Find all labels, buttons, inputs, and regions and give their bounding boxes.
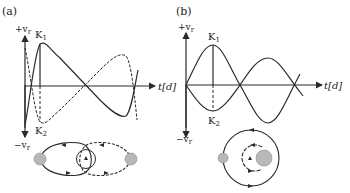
k2-label: K2 [35,125,47,138]
panel-b: (b) +vr −vr t[d] K1 K2 [176,5,342,188]
arrow-icon [99,143,104,147]
star-small [218,153,228,163]
x-label: t[d] [324,80,342,91]
solid-velocity-curve [186,45,300,123]
arrow-icon [248,169,253,173]
arrow-icon [249,128,254,132]
solid-velocity-curve [25,43,138,125]
k1-label: K1 [208,31,220,44]
radial-velocity-diagram: (a) +vr −vr t[d] K1 K2 (b) [0,0,350,193]
star-left [34,153,46,165]
k1-label: K1 [35,29,47,42]
center-of-mass-icon [248,156,252,160]
y-neg-label: −vr [14,140,31,152]
center-of-mass-icon [84,156,88,160]
y-pos-label: +vr [178,22,195,34]
circular-orbit-diagram [218,128,279,188]
arrow-icon [248,184,253,188]
star-right [125,153,137,165]
x-label: t[d] [158,81,176,92]
panel-a-label: (a) [2,5,17,18]
arrow-icon [66,171,71,175]
arrow-icon [250,143,255,147]
star-large [256,150,272,166]
y-neg-label: −vr [176,134,193,146]
k2-label: K2 [208,115,220,128]
eccentric-orbit-diagram [34,142,137,175]
panel-a: (a) +vr −vr t[d] K1 K2 [2,5,176,176]
panel-b-label: (b) [176,5,192,18]
y-pos-label: +vr [15,24,32,36]
